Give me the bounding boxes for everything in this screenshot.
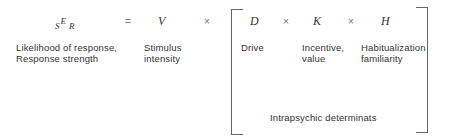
label-k-line1: Incentive,: [302, 43, 344, 54]
symbol-k: K: [313, 14, 321, 29]
symbol-d: D: [250, 14, 259, 29]
lhs-main: E: [61, 16, 67, 26]
label-k-line2: value: [302, 54, 344, 65]
symbol-h: H: [381, 14, 390, 29]
lhs-symbol: SER: [55, 14, 75, 29]
lhs-label: Likelihood of response, Response strengt…: [16, 43, 117, 64]
equals-sign: =: [125, 16, 131, 27]
bracket-label: Intrapsychic determinats: [270, 113, 377, 124]
label-d: Drive: [241, 43, 264, 54]
lhs-suffix: R: [69, 21, 75, 31]
lhs-prefix: S: [55, 21, 60, 31]
right-bracket: [416, 7, 428, 133]
lhs-label-line1: Likelihood of response,: [16, 43, 117, 54]
times-sign-1: ×: [204, 16, 210, 27]
left-bracket: [231, 9, 243, 135]
lhs-label-line2: Response strength: [16, 54, 117, 65]
label-k: Incentive, value: [302, 43, 344, 64]
times-sign-2: ×: [283, 16, 289, 27]
symbol-v: V: [158, 14, 165, 29]
label-v-line2: intensity: [144, 54, 182, 65]
times-sign-3: ×: [348, 16, 354, 27]
label-d-line1: Drive: [241, 43, 264, 54]
label-v: Stimulus intensity: [144, 43, 182, 64]
label-v-line1: Stimulus: [144, 43, 182, 54]
